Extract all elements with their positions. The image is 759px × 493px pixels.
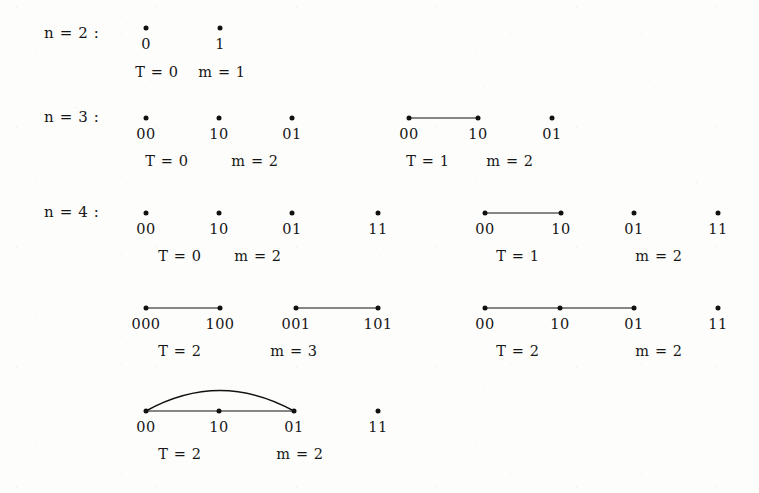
vertex-dot [217, 409, 222, 414]
stat-label: T = 2 [158, 446, 201, 462]
vertex-dot [292, 409, 297, 414]
vertex-label: 00 [136, 419, 155, 435]
vertex-label: 10 [209, 419, 228, 435]
graph-n4-T2-c: 00100111T = 2m = 2 [0, 0, 759, 493]
figure-canvas: n = 2 :n = 3 :n = 4 :01T = 0m = 1001001T… [0, 0, 759, 493]
vertex-dot [376, 409, 381, 414]
vertex-dot [144, 409, 149, 414]
vertex-label: 01 [284, 419, 303, 435]
vertex-label: 11 [368, 419, 387, 435]
stat-label: m = 2 [276, 446, 323, 462]
